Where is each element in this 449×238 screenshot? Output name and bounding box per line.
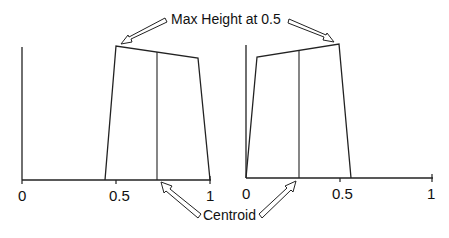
right-tick-label-05: 0.5 <box>332 185 353 202</box>
max-height-arrow-right-icon <box>288 19 334 42</box>
diagram-canvas: 0 0.5 1 0 0.5 1 Max Height at 0.5 Centro… <box>0 0 449 238</box>
left-tick-label-0: 0 <box>18 187 26 204</box>
left-tick-label-05: 0.5 <box>109 187 130 204</box>
left-chart: 0 0.5 1 <box>18 46 214 204</box>
max-height-label: Max Height at 0.5 <box>171 11 281 27</box>
right-tick-label-1: 1 <box>427 185 435 202</box>
centroid-label: Centroid <box>203 207 256 223</box>
left-tick-label-1: 1 <box>206 187 214 204</box>
centroid-arrow-left-icon <box>161 182 201 218</box>
max-height-arrow-left-icon <box>121 18 167 44</box>
centroid-arrow-right-icon <box>259 181 296 218</box>
right-tick-label-0: 0 <box>242 185 250 202</box>
right-chart: 0 0.5 1 <box>242 44 435 202</box>
